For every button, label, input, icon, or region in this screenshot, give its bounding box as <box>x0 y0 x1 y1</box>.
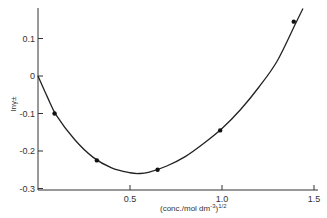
ticks: 0.51.01.50.10-0.1-0.2-0.3 <box>19 34 320 205</box>
x-axis-title: (conc./mol dm-3)1/2 <box>160 203 227 213</box>
data-point <box>155 168 159 172</box>
data-point <box>292 19 296 23</box>
y-axis-title: lnγ± <box>9 96 18 111</box>
x-tick-label: 1.5 <box>308 194 321 204</box>
y-tick-label: -0.3 <box>19 184 35 194</box>
data-point <box>52 111 56 115</box>
y-tick-label: -0.2 <box>19 146 35 156</box>
axes <box>38 8 318 190</box>
x-tick-label: 0.5 <box>124 194 137 204</box>
chart: 0.51.01.50.10-0.1-0.2-0.3 (conc./mol dm-… <box>0 0 327 218</box>
y-tick-label: 0 <box>30 71 35 81</box>
data-point <box>95 158 99 162</box>
y-tick-label: -0.1 <box>19 109 35 119</box>
data-points <box>52 19 296 172</box>
data-point <box>218 128 222 132</box>
fitted-curve <box>38 9 303 174</box>
y-tick-label: 0.1 <box>22 34 35 44</box>
